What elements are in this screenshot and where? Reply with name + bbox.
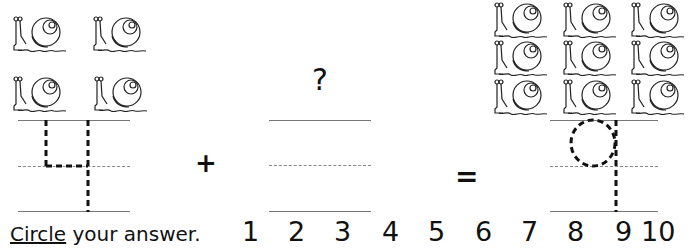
snail-icon [562,77,618,117]
snail-icon [630,77,686,117]
answer-choice-9[interactable]: 9 [615,216,632,247]
snail-icon [493,38,549,78]
answer-choice-1[interactable]: 1 [242,216,259,247]
snail-icon [562,38,618,78]
answer-choice-7[interactable]: 7 [521,216,538,247]
traced-digit-9 [550,118,658,214]
snail-icon [630,38,686,78]
snail-icon [12,74,68,114]
snail-icon [630,0,686,40]
answer-choice-2[interactable]: 2 [288,216,305,247]
snail-icon [493,0,549,40]
question-mark: ? [312,62,328,97]
answer-choice-10[interactable]: 10 [641,216,675,247]
answer-choice-5[interactable]: 5 [428,216,445,247]
equals-sign: = [455,160,478,193]
snail-icon [93,74,149,114]
snail-icon [562,0,618,40]
snail-icon [92,14,148,54]
answer-choice-4[interactable]: 4 [382,216,399,247]
plus-sign: + [195,148,217,178]
answer-choice-3[interactable]: 3 [334,216,351,247]
answer-choice-6[interactable]: 6 [475,216,492,247]
instruction-text: Circle your answer. [10,222,201,246]
snail-icon [493,77,549,117]
traced-digit-4 [18,118,130,214]
snail-icon [12,14,68,54]
answer-choice-8[interactable]: 8 [567,216,584,247]
